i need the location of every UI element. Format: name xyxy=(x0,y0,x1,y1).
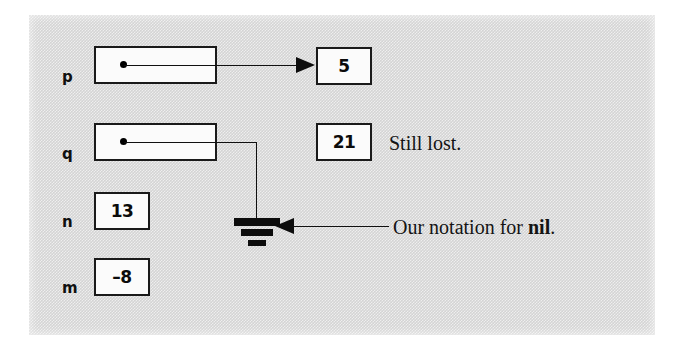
variable-label-m: m xyxy=(62,281,78,296)
variable-label-n: n xyxy=(62,215,73,230)
integer-cell-n-value: 13 xyxy=(96,201,148,221)
annotation-still-lost: Still lost. xyxy=(389,133,461,153)
pointer-line-q-horizontal xyxy=(124,142,257,143)
integer-cell-m: –8 xyxy=(94,258,150,296)
ground-bar-2 xyxy=(241,229,273,236)
variable-label-p: p xyxy=(62,70,73,85)
variable-label-q: q xyxy=(62,147,73,162)
annotation-nil-note-suffix: . xyxy=(550,216,555,238)
nil-annotation-line xyxy=(293,226,389,227)
pointer-line-q-vertical xyxy=(256,142,257,219)
annotation-nil-keyword: nil xyxy=(528,216,550,238)
pointer-line-p xyxy=(124,65,302,66)
figure-panel: p 5 q 21 Still lost. Our notation for ni… xyxy=(29,15,655,335)
annotation-nil-note-prefix: Our notation for xyxy=(393,216,528,238)
heap-node-5-value: 5 xyxy=(318,56,370,76)
ground-bar-3 xyxy=(248,240,266,246)
heap-node-21-value: 21 xyxy=(318,132,370,152)
pointer-arrowhead-p xyxy=(296,57,315,73)
heap-node-21: 21 xyxy=(316,123,372,161)
heap-node-5: 5 xyxy=(316,47,372,85)
integer-cell-n: 13 xyxy=(94,192,150,230)
nil-annotation-arrowhead xyxy=(275,218,294,234)
integer-cell-m-value: –8 xyxy=(96,267,148,287)
annotation-nil-note: Our notation for nil. xyxy=(393,217,555,237)
ground-bar-1 xyxy=(234,218,280,226)
